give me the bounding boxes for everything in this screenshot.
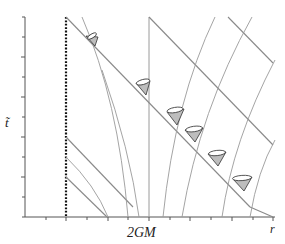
light-cone-5 [208, 150, 226, 166]
light-cone-2 [136, 78, 151, 95]
horizon-label: 2GM [127, 225, 156, 241]
axes [21, 17, 275, 221]
y-ticks [21, 17, 25, 197]
light-cone-3 [167, 106, 184, 125]
y-axis-label: t̃ [5, 115, 9, 131]
x-axis-label: r [270, 222, 275, 237]
spacetime-diagram [0, 0, 285, 244]
x-ticks [46, 217, 273, 221]
light-cone-6 [232, 175, 252, 191]
light-cones [86, 32, 252, 191]
